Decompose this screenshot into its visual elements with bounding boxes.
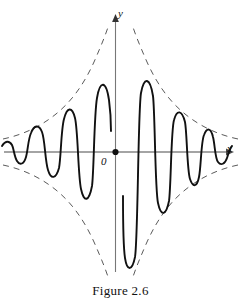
y-axis-label: y [118,8,123,19]
origin-dot-marker [112,149,118,155]
figure-container: y x 0 Figure 2.6 [0,0,241,304]
oscillating-curve-group [2,81,232,268]
oscillating-curve-right [123,81,232,268]
origin-label: 0 [101,156,107,167]
x-axis-label: x [227,143,232,154]
envelope-upper-left [3,24,109,139]
envelope-lower-right [132,165,238,280]
figure-caption: Figure 2.6 [0,283,241,299]
oscillating-curve-left [2,85,111,199]
axes-group [4,14,234,272]
plot-canvas [0,0,241,282]
